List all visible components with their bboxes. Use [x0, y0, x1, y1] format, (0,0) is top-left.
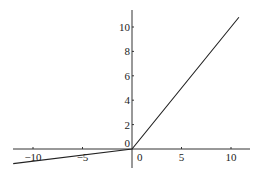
x-tick-label: −5 — [77, 151, 89, 163]
y-tick-label: 2 — [125, 119, 131, 131]
y-tick-label: 4 — [125, 94, 131, 106]
x-tick-label: 0 — [137, 151, 143, 163]
axes — [13, 10, 250, 168]
x-tick-label: 5 — [179, 151, 185, 163]
y-tick-label: 8 — [125, 45, 131, 57]
x-tick-label: 10 — [226, 151, 238, 163]
y-tick-label: 6 — [125, 70, 131, 82]
y-tick-label: 10 — [119, 21, 131, 33]
y-tick-label: 0 — [125, 137, 131, 149]
leaky-relu-chart: −10−50510 0246810 — [0, 0, 261, 178]
